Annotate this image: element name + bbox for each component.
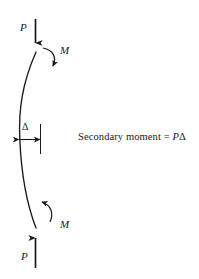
moment-label-bottom: M (60, 219, 69, 230)
buckled-column-figure: P M Δ M P Secondary moment = PΔ (0, 0, 199, 279)
moment-arrow-top (43, 48, 55, 66)
equation-lead-text: Secondary moment = (78, 131, 172, 142)
deflection-label: Δ (22, 122, 28, 132)
moment-label-top: M (60, 45, 69, 56)
secondary-moment-equation: Secondary moment = PΔ (78, 131, 186, 142)
equation-deflection-symbol: Δ (179, 131, 186, 142)
moment-arrow-bottom (42, 202, 52, 222)
load-label-top: P (20, 22, 27, 33)
load-label-bottom: P (21, 251, 28, 262)
